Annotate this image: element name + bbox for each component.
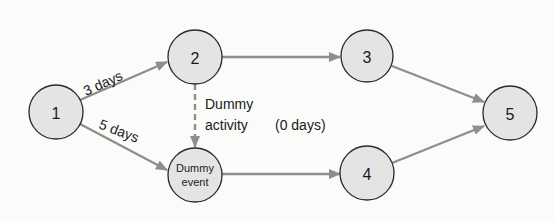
dummy-activity-duration: (0 days) (275, 117, 326, 133)
node-5: 5 (483, 86, 537, 140)
node-2-label: 2 (191, 50, 200, 67)
node-3: 3 (341, 30, 393, 82)
network-diagram: 3 days 5 days Dummy activity (0 days) 1 … (0, 0, 555, 221)
edge-4-to-5 (392, 126, 484, 163)
node-dummy-event: Dummy event (168, 148, 222, 202)
node-2: 2 (168, 30, 222, 84)
edge-3-to-5 (392, 66, 484, 102)
dummy-activity-label-line1: Dummy (205, 96, 253, 112)
node-1: 1 (29, 85, 83, 139)
dummy-event-label-line2: event (182, 176, 209, 188)
node-4-label: 4 (363, 166, 372, 183)
node-3-label: 3 (363, 49, 372, 66)
dummy-activity-label-line2: activity (205, 117, 248, 133)
edge-label-5-days: 5 days (97, 116, 141, 146)
node-5-label: 5 (506, 106, 515, 123)
diagram-canvas: 3 days 5 days Dummy activity (0 days) 1 … (0, 0, 555, 221)
edge-label-3-days: 3 days (81, 67, 125, 98)
dummy-event-label-line1: Dummy (176, 162, 214, 174)
node-4: 4 (340, 146, 394, 200)
node-1-label: 1 (52, 105, 61, 122)
